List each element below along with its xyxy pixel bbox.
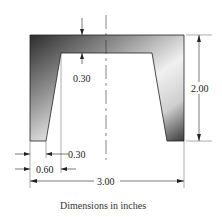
overall-width-label: 3.00 xyxy=(97,176,115,187)
leg-offset-label: 0.60 xyxy=(36,164,54,175)
leg-bottom-dimension: 0.30 xyxy=(15,149,86,160)
caption: Dimensions in inches xyxy=(60,200,146,211)
overall-width-dimension: 3.00 xyxy=(30,175,184,187)
leg-offset-dimension: 0.60 xyxy=(15,164,76,175)
leg-bottom-label: 0.30 xyxy=(68,149,86,160)
height-label: 2.00 xyxy=(191,83,209,94)
height-dimension: 2.00 xyxy=(186,35,212,141)
channel-section-shape xyxy=(30,35,184,141)
flange-thickness-label: 0.30 xyxy=(73,73,91,84)
channel-cross-section-diagram: 0.30 2.00 0.30 0.60 3.00 Dime xyxy=(0,0,222,217)
